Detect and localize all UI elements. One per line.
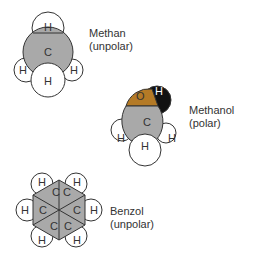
benzol-h-label: H <box>73 176 81 189</box>
benzol-c-label: C <box>73 204 81 217</box>
methanol-o-label: O <box>136 90 145 103</box>
methanol-name: Methanol <box>189 104 234 117</box>
methanol-h-left-label: H <box>117 132 125 145</box>
benzol-c-label: C <box>64 220 72 233</box>
benzol-h-label: H <box>90 204 98 217</box>
methan-polarity: (unpolar) <box>89 40 133 53</box>
benzol-c-label: C <box>39 204 47 217</box>
methanol-h-bottom-label: H <box>141 140 149 153</box>
methanol-polarity: (polar) <box>189 117 221 130</box>
methanol-h-oh-label: H <box>155 85 163 98</box>
benzol-polarity: (unpolar) <box>110 218 154 231</box>
methan-c-label: C <box>44 46 52 59</box>
benzol-h-label: H <box>21 204 29 217</box>
methan-h-bottom-label: H <box>44 75 52 88</box>
methan-h-left-label: H <box>19 64 27 77</box>
methanol-h-right-label: H <box>168 132 176 145</box>
methan-h-right-label: H <box>70 64 78 77</box>
benzol-c-label: C <box>52 186 60 199</box>
methan-name: Methan <box>89 27 126 40</box>
methanol-c-label: C <box>143 116 151 129</box>
benzol-c-label: C <box>50 220 58 233</box>
benzol-h-label: H <box>38 176 46 189</box>
benzol-h-label: H <box>73 234 81 247</box>
benzol-name: Benzol <box>110 205 144 218</box>
methan-h-top-label: H <box>44 21 52 34</box>
benzol-h-label: H <box>38 234 46 247</box>
benzol-c-label: C <box>63 186 71 199</box>
